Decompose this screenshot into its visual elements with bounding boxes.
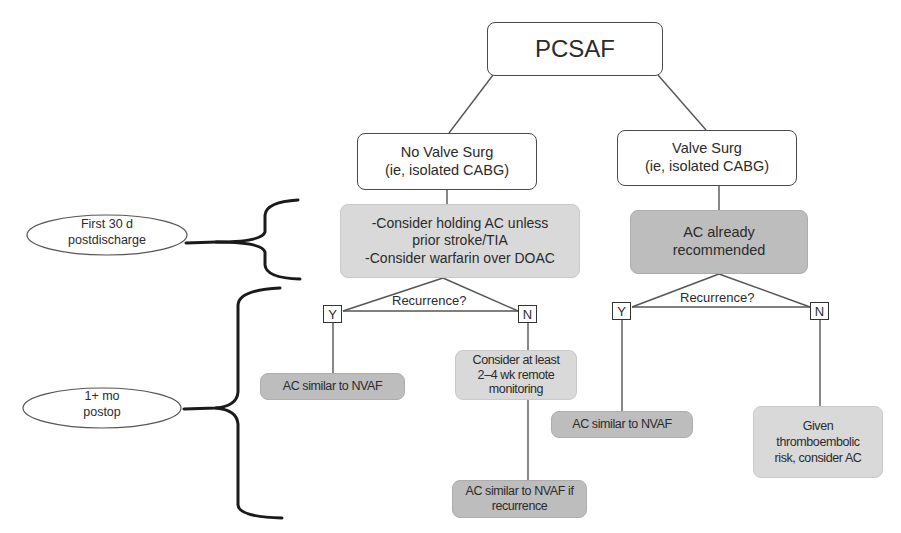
- brace-first-30d: [186, 200, 298, 243]
- root-node-pcsaf: PCSAF: [487, 22, 663, 76]
- decision-recurrence-left: Recurrence?: [392, 293, 466, 308]
- period-line: First 30 d: [52, 217, 162, 233]
- outcome-label: AC similar to NVAF: [283, 379, 383, 394]
- period-line: 1+ mo: [52, 389, 152, 405]
- outcome-ac-similar-nvaf-left: AC similar to NVAF: [260, 373, 405, 400]
- outcome-thromboembolic-risk: Given thromboembolic risk, consider AC: [753, 406, 883, 478]
- outcome-line: monitoring: [489, 382, 543, 396]
- action-line: recommended: [673, 242, 766, 260]
- outcome-remote-monitoring: Consider at least 2–4 wk remote monitori…: [455, 350, 577, 400]
- outcome-line: Given: [803, 418, 834, 434]
- outcome-line: AC similar to NVAF if: [465, 484, 573, 499]
- outcome-line: Consider at least: [473, 353, 560, 367]
- outcome-line: recurrence: [492, 499, 548, 514]
- outcome-line: 2–4 wk remote: [478, 368, 555, 382]
- yes-box-right: Y: [612, 302, 631, 320]
- branch-subtitle: (ie, isolated CABG): [645, 158, 769, 176]
- action-line: -Consider warfarin over DOAC: [365, 250, 555, 267]
- outcome-ac-if-recurrence: AC similar to NVAF if recurrence: [452, 480, 587, 518]
- branch-subtitle: (ie, isolated CABG): [385, 162, 509, 180]
- decision-recurrence-right: Recurrence?: [680, 290, 754, 305]
- root-label: PCSAF: [535, 34, 615, 63]
- branch-valve-surg: Valve Surg (ie, isolated CABG): [617, 130, 797, 186]
- period-1mo-postop: 1+ mo postop: [52, 389, 152, 420]
- action-line: prior stroke/TIA: [412, 232, 508, 249]
- period-line: postdischarge: [52, 233, 162, 249]
- period-line: postop: [52, 405, 152, 421]
- action-hold-ac: -Consider holding AC unless prior stroke…: [340, 204, 580, 278]
- period-first-30d: First 30 d postdischarge: [52, 217, 162, 248]
- action-line: AC already: [683, 224, 755, 242]
- outcome-ac-similar-nvaf-right: AC similar to NVAF: [551, 411, 693, 438]
- outcome-line: risk, consider AC: [775, 450, 862, 466]
- no-box-left: N: [518, 305, 537, 323]
- outcome-label: AC similar to NVAF: [572, 417, 672, 432]
- yes-box-left: Y: [323, 305, 342, 323]
- branch-title: Valve Surg: [672, 140, 742, 158]
- branch-title: No Valve Surg: [401, 144, 493, 162]
- outcome-line: thromboembolic: [776, 434, 859, 450]
- branch-no-valve-surg: No Valve Surg (ie, isolated CABG): [357, 133, 537, 190]
- action-line: -Consider holding AC unless: [372, 215, 549, 232]
- no-box-right: N: [810, 302, 829, 320]
- action-ac-recommended: AC already recommended: [630, 210, 808, 274]
